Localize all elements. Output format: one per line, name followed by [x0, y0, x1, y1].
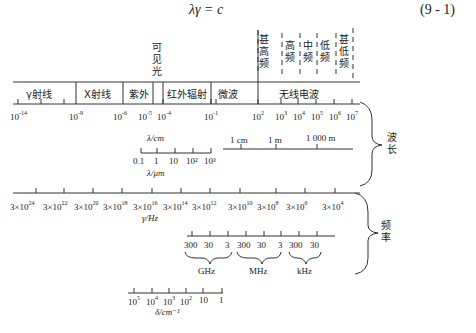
freq-sub-tick: 300 — [289, 240, 303, 250]
freq-tick: 3×1016 — [133, 200, 158, 212]
wl-tick: 105 — [311, 110, 323, 122]
wl-tick: 10-9 — [69, 110, 83, 122]
freq-tick: 3×1024 — [10, 200, 35, 212]
wl-tick: 10-5 — [138, 110, 152, 122]
um-tick: 0.1 — [133, 156, 144, 166]
um-tick: 1 — [154, 156, 159, 166]
subband-lf: 低频 — [319, 40, 331, 64]
wn-tick: 1 — [219, 295, 224, 305]
wl-tick: 10-1 — [204, 110, 218, 122]
band-infrared: 红外辐射 — [167, 86, 207, 101]
freq-tick: 3×104 — [322, 200, 344, 212]
freq-tick: 3×1012 — [192, 200, 217, 212]
freq-tick: 3×1010 — [228, 200, 253, 212]
m-tick: 1 000 m — [306, 133, 336, 143]
freq-tick: 3×1020 — [74, 200, 99, 212]
frequency-unit: γ/Hz — [142, 213, 158, 223]
band-gamma-ray: γ射线 — [26, 86, 52, 101]
subband-vhf: 甚高频 — [258, 34, 270, 70]
unit-mhz: MHz — [249, 266, 268, 276]
spectrum-lines — [0, 0, 476, 333]
wavelength-label: 波长 — [386, 132, 398, 156]
wavelength-unit-um: λ/μm — [147, 168, 164, 178]
wavenumber-unit: δ/cm⁻¹ — [155, 307, 180, 317]
freq-tick: 3×108 — [257, 200, 279, 212]
m-tick: 1 cm — [230, 135, 248, 145]
freq-sub-tick: 300 — [237, 240, 251, 250]
band-x-ray: X射线 — [84, 86, 111, 101]
wl-tick: 106 — [329, 110, 341, 122]
wl-tick: 107 — [346, 110, 358, 122]
unit-ghz: GHz — [198, 266, 215, 276]
freq-tick: 3×106 — [286, 200, 308, 212]
subband-vlf: 甚低频 — [338, 34, 350, 70]
um-tick: 10³ — [204, 156, 216, 166]
band-ultraviolet: 紫外 — [129, 86, 149, 101]
freq-sub-tick: 3 — [225, 240, 230, 250]
wn-tick: 105 — [128, 295, 140, 307]
wl-tick: 10-6 — [113, 110, 127, 122]
subband-hf: 高频 — [284, 40, 296, 64]
m-tick: 1 m — [268, 135, 282, 145]
subband-mf: 中频 — [302, 40, 314, 64]
freq-sub-tick: 30 — [257, 240, 266, 250]
freq-tick: 3×1018 — [103, 200, 128, 212]
unit-khz: kHz — [297, 266, 312, 276]
wn-tick: 103 — [163, 295, 175, 307]
frequency-label: 频率 — [380, 220, 392, 244]
um-tick: 10 — [169, 156, 178, 166]
freq-sub-tick: 3 — [278, 240, 283, 250]
freq-tick: 3×1014 — [163, 200, 188, 212]
wl-tick: 102 — [252, 110, 264, 122]
freq-sub-tick: 300 — [184, 240, 198, 250]
wl-tick: 103 — [275, 110, 287, 122]
um-tick: 10² — [186, 156, 198, 166]
freq-sub-tick: 30 — [310, 240, 319, 250]
wn-tick: 104 — [146, 295, 158, 307]
freq-sub-tick: 30 — [204, 240, 213, 250]
freq-tick: 3×1022 — [43, 200, 68, 212]
band-radio: 无线电波 — [279, 86, 319, 101]
visible-light-label: 可 见 光 — [151, 42, 163, 78]
wl-tick: 104 — [293, 110, 305, 122]
wn-tick: 10 — [199, 295, 208, 305]
band-microwave: 微波 — [218, 86, 238, 101]
wl-tick: 10-14 — [10, 110, 27, 122]
wn-tick: 102 — [180, 295, 192, 307]
wavelength-unit-cm: λ/cm — [147, 133, 164, 143]
wl-tick: 10-4 — [157, 110, 171, 122]
